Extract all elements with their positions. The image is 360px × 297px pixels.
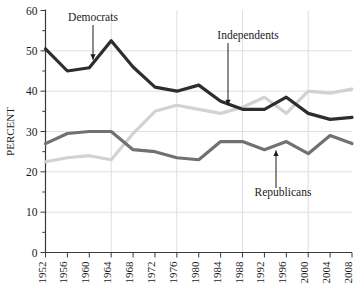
series-line-democrats [46,41,353,120]
y-axis-label: PERCENT [4,107,16,156]
x-tick-label: 2000 [298,261,310,284]
x-tick-label: 1968 [123,261,135,284]
line-chart: 0102030405060 19521956196019641968197219… [0,0,360,297]
y-tick-label: 30 [26,126,38,138]
x-axis-tick-labels: 1952195619601964196819721976198019841988… [36,261,355,284]
x-tick-label: 1964 [101,261,113,284]
series-lines [46,41,353,162]
annotation-label-independents: Independents [217,29,279,42]
chart-canvas: 0102030405060 19521956196019641968197219… [0,0,360,297]
x-tick-label: 1988 [233,261,245,284]
x-tick-label: 1960 [79,261,91,284]
annotation-label-republicans: Republicans [255,186,312,199]
y-axis-title: PERCENT [4,107,16,156]
x-tick-label: 1956 [57,261,69,284]
x-tick-label: 1992 [254,262,266,284]
y-axis-tick-labels: 0102030405060 [26,5,38,259]
y-tick-label: 60 [26,5,38,17]
x-tick-label: 1952 [36,262,48,284]
y-tick-label: 50 [26,45,38,57]
x-tick-label: 1972 [145,262,157,284]
annotation-label-democrats: Democrats [68,11,118,23]
x-tick-label: 1980 [189,261,201,284]
y-tick-label: 10 [26,206,38,218]
x-tick-label: 2008 [342,261,354,284]
y-tick-label: 0 [32,247,38,259]
x-tick-label: 1984 [211,261,223,284]
y-tick-label: 20 [26,166,38,178]
x-tick-label: 1976 [167,261,179,284]
axes [41,10,353,258]
annotation-arrowhead [273,151,278,157]
y-tick-label: 40 [26,85,38,97]
x-tick-label: 1996 [276,261,288,284]
x-tick-label: 2004 [320,261,332,284]
